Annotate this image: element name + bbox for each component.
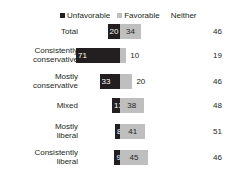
bar-group: 3320 bbox=[84, 74, 180, 89]
row-label-line2: liberal bbox=[0, 157, 78, 166]
neither-value: 19 bbox=[180, 51, 226, 60]
table-row: Consistentlyconservative711019 bbox=[0, 46, 230, 64]
legend-label-unfavorable: Unfavorable bbox=[67, 11, 110, 20]
bar-value-unfavorable: 71 bbox=[78, 51, 87, 60]
bar-value-favorable: 38 bbox=[120, 98, 144, 113]
bar-favorable bbox=[120, 48, 126, 63]
table-row: Mostlyliberal84151 bbox=[0, 122, 230, 140]
legend-item-unfavorable: Unfavorable bbox=[60, 11, 110, 20]
bar-group: 2034 bbox=[84, 24, 180, 39]
table-row: Mostlyconservative332046 bbox=[0, 72, 230, 90]
bar-group: 1338 bbox=[84, 98, 180, 113]
bar-value-favorable: 34 bbox=[120, 24, 141, 39]
bar-unfavorable: 33 bbox=[100, 74, 120, 89]
bar-group: 841 bbox=[84, 124, 180, 139]
bar-value-unfavorable: 20 bbox=[110, 27, 119, 36]
neither-value: 48 bbox=[180, 101, 226, 110]
bar-value-unfavorable: 33 bbox=[102, 77, 111, 86]
neither-value: 46 bbox=[180, 153, 226, 162]
row-label-line1: Consistently bbox=[0, 46, 78, 55]
bar-unfavorable: 71 bbox=[76, 48, 120, 63]
neither-value: 46 bbox=[180, 77, 226, 86]
bar-value-favorable: 20 bbox=[136, 74, 152, 89]
chart-rows: Total203446Consistentlyconservative71101… bbox=[0, 22, 230, 189]
table-row: Consistentlyliberal94546 bbox=[0, 148, 230, 166]
table-row: Total203446 bbox=[0, 24, 230, 39]
legend-item-favorable: Favorable bbox=[117, 11, 160, 20]
row-label-line1: Mostly bbox=[0, 122, 78, 131]
row-label-line2: conservative bbox=[0, 81, 78, 90]
neither-value: 46 bbox=[180, 27, 226, 36]
row-label-line1: Mixed bbox=[0, 101, 78, 110]
row-label: Mostlyliberal bbox=[0, 122, 84, 140]
legend-label-favorable: Favorable bbox=[124, 11, 160, 20]
chart-legend: Unfavorable Favorable Neither bbox=[0, 9, 230, 21]
neither-value: 51 bbox=[180, 127, 226, 136]
bar-value-favorable: 41 bbox=[120, 124, 145, 139]
row-label: Total bbox=[0, 27, 84, 36]
survey-bar-chart: Unfavorable Favorable Neither Total20344… bbox=[0, 0, 230, 189]
legend-swatch-favorable-icon bbox=[117, 13, 122, 18]
table-row: Mixed133848 bbox=[0, 98, 230, 113]
bar-favorable bbox=[120, 74, 132, 89]
row-label-line1: Mostly bbox=[0, 72, 78, 81]
bar-value-favorable: 10 bbox=[130, 48, 146, 63]
row-label: Consistentlyconservative bbox=[0, 46, 84, 64]
row-label: Consistentlyliberal bbox=[0, 148, 84, 166]
row-label: Mixed bbox=[0, 101, 84, 110]
row-label-line1: Consistently bbox=[0, 148, 78, 157]
row-label-line2: liberal bbox=[0, 131, 78, 140]
row-label-line2: conservative bbox=[0, 55, 78, 64]
chart-title bbox=[0, 0, 230, 1]
bar-unfavorable: 13 bbox=[112, 98, 120, 113]
legend-label-neither: Neither bbox=[171, 11, 197, 20]
bar-value-favorable: 45 bbox=[120, 150, 148, 165]
bar-group: 7110 bbox=[84, 48, 180, 63]
bar-unfavorable: 20 bbox=[108, 24, 120, 39]
row-label: Mostlyconservative bbox=[0, 72, 84, 90]
legend-swatch-unfavorable-icon bbox=[60, 13, 65, 18]
bar-group: 945 bbox=[84, 150, 180, 165]
row-label-line1: Total bbox=[0, 27, 78, 36]
